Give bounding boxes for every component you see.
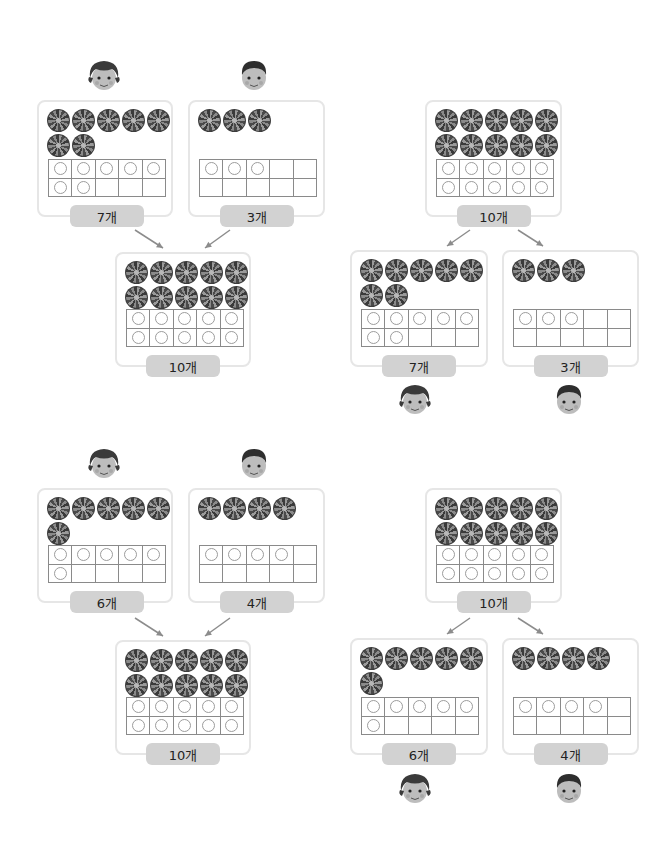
ten-frame-cell [484, 179, 507, 198]
boy-face-icon [551, 771, 587, 807]
circle-counter-icon [437, 700, 450, 713]
total-card [425, 100, 562, 217]
ten-frame-cell [437, 179, 460, 198]
swirl-candy-icon [200, 286, 223, 309]
ten-frame-cell [174, 717, 197, 736]
ten-frame-cell [72, 546, 95, 565]
ten-frame-cell [362, 310, 385, 329]
circle-counter-icon [54, 162, 67, 175]
candy-group [360, 259, 485, 307]
ten-frame-cell [456, 310, 479, 329]
ten-frame-cell [608, 698, 631, 717]
circle-counter-icon [178, 312, 191, 325]
swirl-candy-icon [385, 284, 408, 307]
ten-frame-cell [456, 698, 479, 717]
swirl-candy-icon [225, 286, 248, 309]
arrow-icon [512, 224, 549, 252]
swirl-candy-icon [410, 647, 433, 670]
girl-face-icon [397, 382, 433, 418]
ten-frame-cell [409, 310, 432, 329]
ten-frame-cell [507, 546, 530, 565]
ten-frame [48, 545, 166, 583]
ten-frame-cell [96, 565, 119, 584]
girl-card [37, 100, 173, 217]
candy-group [125, 261, 250, 309]
girl-card [350, 638, 488, 755]
swirl-candy-icon [435, 522, 458, 545]
circle-counter-icon [225, 331, 238, 344]
circle-counter-icon [442, 567, 455, 580]
total-card [115, 640, 251, 755]
swirl-candy-icon [72, 134, 95, 157]
ten-frame-cell [143, 546, 166, 565]
circle-counter-icon [77, 162, 90, 175]
swirl-candy-icon [435, 109, 458, 132]
circle-counter-icon [460, 312, 473, 325]
ten-frame-cell [385, 698, 408, 717]
swirl-candy-icon [360, 259, 383, 282]
ten-frame-cell [221, 698, 244, 717]
ten-frame-cell [150, 310, 173, 329]
circle-counter-icon [442, 181, 455, 194]
circle-counter-icon [535, 162, 548, 175]
circle-counter-icon [225, 700, 238, 713]
arrow-icon [199, 224, 236, 254]
candy-group [360, 647, 485, 695]
ten-frame-cell [437, 565, 460, 584]
swirl-candy-icon [198, 109, 221, 132]
circle-counter-icon [54, 181, 67, 194]
swirl-candy-icon [460, 497, 483, 520]
circle-counter-icon [124, 548, 137, 561]
circle-counter-icon [54, 567, 67, 580]
swirl-candy-icon [97, 109, 120, 132]
ten-frame-cell [432, 329, 455, 348]
ten-frame-cell [385, 329, 408, 348]
ten-frame-cell [197, 717, 220, 736]
swirl-candy-icon [150, 649, 173, 672]
swirl-candy-icon [537, 259, 560, 282]
ten-frame [48, 159, 166, 197]
circle-counter-icon [100, 548, 113, 561]
girl-card [350, 250, 488, 367]
ten-frame-cell [514, 698, 537, 717]
ten-frame [436, 159, 554, 197]
count-label: 10개 [146, 355, 220, 377]
circle-counter-icon [535, 567, 548, 580]
swirl-candy-icon [125, 261, 148, 284]
circle-counter-icon [460, 700, 473, 713]
swirl-candy-icon [435, 497, 458, 520]
ten-frame-cell [561, 329, 584, 348]
circle-counter-icon [178, 331, 191, 344]
swirl-candy-icon [273, 497, 296, 520]
ten-frame-cell [507, 565, 530, 584]
swirl-candy-icon [512, 259, 535, 282]
ten-frame-cell [119, 565, 142, 584]
ten-frame-cell [197, 310, 220, 329]
ten-frame-cell [294, 179, 317, 198]
ten-frame-cell [460, 179, 483, 198]
circle-counter-icon [155, 700, 168, 713]
ten-frame [436, 545, 554, 583]
swirl-candy-icon [460, 109, 483, 132]
swirl-candy-icon [47, 109, 70, 132]
ten-frame-cell [143, 565, 166, 584]
ten-frame-cell [385, 717, 408, 736]
circle-counter-icon [77, 181, 90, 194]
swirl-candy-icon [200, 649, 223, 672]
swirl-candy-icon [485, 109, 508, 132]
ten-frame-cell [49, 179, 72, 198]
swirl-candy-icon [510, 497, 533, 520]
circle-counter-icon [413, 312, 426, 325]
swirl-candy-icon [460, 259, 483, 282]
circle-counter-icon [512, 548, 525, 561]
circle-counter-icon [155, 331, 168, 344]
swirl-candy-icon [510, 522, 533, 545]
circle-counter-icon [367, 331, 380, 344]
ten-frame-cell [143, 160, 166, 179]
ten-frame-cell [127, 329, 150, 348]
circle-counter-icon [228, 548, 241, 561]
ten-frame [513, 697, 631, 735]
circle-counter-icon [465, 181, 478, 194]
ten-frame-cell [484, 160, 507, 179]
ten-frame-cell [432, 717, 455, 736]
